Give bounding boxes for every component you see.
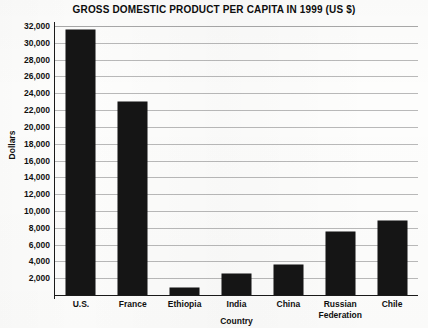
y-tick-label: 20,000 [2,122,50,132]
x-tick-label: Chile [366,299,418,310]
x-tick-label-line: Russian [314,299,366,310]
y-axis-tick-labels: 2,0004,0006,0008,00010,00012,00014,00016… [0,0,50,328]
bar-column [170,26,199,295]
y-tick-label: 32,000 [2,21,50,31]
bar [326,232,355,295]
y-tick-label: 6,000 [2,240,50,250]
bar-column [326,26,355,295]
y-tick-label: 26,000 [2,71,50,81]
x-tick-label-line: China [262,299,314,310]
x-axis-title: Country [55,316,418,326]
chart-title: GROSS DOMESTIC PRODUCT PER CAPITA IN 199… [0,4,428,15]
x-tick-label-line: France [107,299,159,310]
y-axis-line [54,22,55,299]
plot-area [55,26,418,295]
y-tick-label: 24,000 [2,88,50,98]
bar [274,265,303,295]
y-tick-label: 10,000 [2,206,50,216]
x-tick-label-line: Ethiopia [159,299,211,310]
bar [222,274,251,295]
y-tick-label: 2,000 [2,273,50,283]
bar-column [378,26,407,295]
x-axis-line [54,295,418,297]
bar-column [222,26,251,295]
y-tick-label: 28,000 [2,55,50,65]
x-tick-label-line: Chile [366,299,418,310]
bar-column [118,26,147,295]
bar [378,221,407,295]
y-tick-label: 14,000 [2,172,50,182]
x-tick-label: Ethiopia [159,299,211,310]
x-tick-label-line: India [211,299,263,310]
bar-column [274,26,303,295]
gdp-per-capita-bar-chart: GROSS DOMESTIC PRODUCT PER CAPITA IN 199… [0,0,428,328]
y-tick-label: 8,000 [2,223,50,233]
x-tick-label: India [211,299,263,310]
y-tick-label: 12,000 [2,189,50,199]
bar-column [66,26,95,295]
bar [66,30,95,295]
y-tick-label: 16,000 [2,156,50,166]
y-tick-label: 4,000 [2,256,50,266]
y-tick-label: 30,000 [2,38,50,48]
x-tick-label: France [107,299,159,310]
x-tick-label-line: U.S. [55,299,107,310]
x-tick-label: China [262,299,314,310]
bar [118,102,147,295]
y-tick-label: 22,000 [2,105,50,115]
x-tick-label: U.S. [55,299,107,310]
y-tick-label: 18,000 [2,139,50,149]
